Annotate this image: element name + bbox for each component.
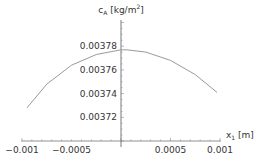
x-tick-label: 0.001 [207, 145, 233, 155]
y-tick-label: 0.00378 [80, 41, 117, 51]
series [27, 50, 217, 108]
line-chart: −0.001−0.00050.00050.0010.003720.003740.… [0, 0, 266, 167]
axes [21, 20, 221, 147]
ticks: −0.001−0.00050.00050.0010.003720.003740.… [5, 23, 233, 156]
y-tick-label: 0.00372 [80, 112, 117, 122]
data-line [27, 50, 217, 108]
x-axis-label: x1 [m] [226, 130, 254, 141]
y-axis-label: cA [kg/m2] [98, 3, 144, 16]
x-tick-label: −0.0005 [52, 145, 91, 155]
y-tick-label: 0.00374 [80, 89, 117, 99]
x-tick-label: −0.001 [5, 145, 38, 155]
x-tick-label: 0.0005 [155, 145, 187, 155]
y-tick-label: 0.00376 [80, 65, 117, 75]
axis-labels: cA [kg/m2]x1 [m] [98, 3, 254, 141]
